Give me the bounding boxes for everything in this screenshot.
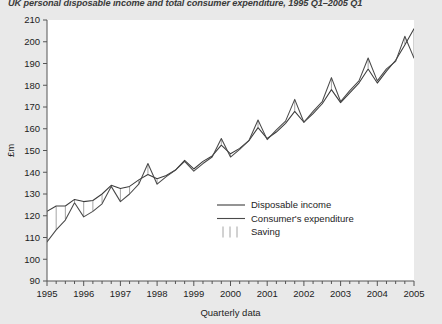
x-tick-label: 2004	[367, 288, 388, 299]
x-axis-label: Quarterly data	[200, 307, 261, 318]
y-axis-label: £m	[5, 144, 16, 157]
chart-svg: 90100110120130140150160170180190200210 1…	[0, 0, 442, 324]
x-tick-label: 1999	[183, 288, 204, 299]
plot-background	[47, 20, 414, 281]
y-tick-label: 150	[24, 145, 40, 156]
legend-label: Saving	[251, 226, 280, 237]
y-tick-label: 180	[24, 80, 40, 91]
chart-figure: UK personal disposable income and total …	[0, 0, 442, 324]
y-tick-label: 190	[24, 58, 40, 69]
x-tick-label: 1996	[73, 288, 94, 299]
y-tick-label: 140	[24, 167, 40, 178]
x-axis-ticks: 1995199619971998199920002001200220032004…	[36, 281, 424, 299]
y-tick-label: 120	[24, 210, 40, 221]
x-tick-label: 2001	[257, 288, 278, 299]
legend-label: Disposable income	[251, 199, 331, 210]
x-tick-label: 1997	[110, 288, 131, 299]
y-tick-label: 130	[24, 188, 40, 199]
x-tick-label: 2005	[403, 288, 424, 299]
y-tick-label: 90	[29, 275, 40, 286]
x-tick-label: 1998	[147, 288, 168, 299]
legend-label: Consumer's expenditure	[251, 213, 354, 224]
y-axis-ticks: 90100110120130140150160170180190200210	[24, 14, 47, 286]
x-tick-label: 2002	[293, 288, 314, 299]
y-tick-label: 110	[25, 232, 40, 243]
y-tick-label: 170	[24, 101, 40, 112]
x-tick-label: 2000	[220, 288, 241, 299]
y-tick-label: 100	[24, 254, 40, 265]
y-tick-label: 160	[24, 123, 40, 134]
x-tick-label: 2003	[330, 288, 351, 299]
x-tick-label: 1995	[36, 288, 57, 299]
y-tick-label: 200	[24, 36, 40, 47]
y-tick-label: 210	[24, 14, 40, 25]
